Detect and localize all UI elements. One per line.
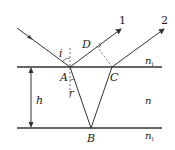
ray-2	[112, 29, 164, 67]
ray-1	[70, 29, 121, 67]
label-i: i	[59, 47, 63, 60]
label-b: B	[86, 132, 95, 145]
label-medium-top-sub: 1	[151, 61, 154, 67]
perpendicular-cd	[96, 45, 112, 67]
arrow-up-icon	[29, 67, 34, 73]
label-medium-bottom-sub: 1	[151, 136, 154, 142]
label-medium-film: n	[145, 95, 151, 106]
label-d: D	[81, 38, 91, 51]
label-c: C	[110, 71, 119, 84]
arrow-down-icon	[29, 122, 34, 128]
angle-i-arc	[63, 58, 70, 61]
label-ray-1: 1	[119, 14, 126, 27]
label-r: r	[69, 87, 75, 98]
label-ray-2: 2	[161, 14, 168, 27]
reflected-ray-bc	[91, 67, 112, 128]
thin-film-diagram: i r A B C D h 1 2 n 1 n n 1	[0, 0, 175, 150]
angle-r-arc	[70, 79, 75, 80]
label-a: A	[59, 71, 68, 84]
label-h: h	[36, 94, 43, 107]
